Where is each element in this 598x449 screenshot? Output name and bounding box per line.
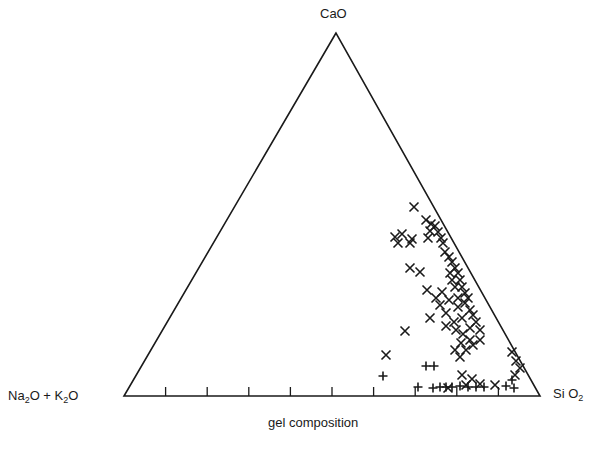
x-markers-series bbox=[382, 203, 525, 393]
x-marker bbox=[444, 384, 453, 393]
x-marker bbox=[438, 288, 447, 297]
vertex-label-na2o-k2o: Na2O + K2O bbox=[8, 388, 78, 403]
x-marker bbox=[445, 253, 454, 262]
vertex-label-cao: CaO bbox=[320, 6, 347, 21]
x-marker bbox=[466, 336, 475, 345]
x-marker bbox=[406, 239, 415, 248]
plus-marker bbox=[510, 384, 519, 393]
x-marker bbox=[458, 371, 467, 380]
x-marker bbox=[469, 341, 478, 350]
plus-marker bbox=[430, 362, 439, 371]
plus-marker bbox=[429, 384, 438, 393]
plus-marker bbox=[422, 362, 431, 371]
x-marker bbox=[451, 346, 460, 355]
plus-marker bbox=[502, 382, 511, 391]
x-marker bbox=[476, 336, 485, 345]
x-marker bbox=[382, 351, 391, 360]
x-marker bbox=[464, 294, 473, 303]
x-marker bbox=[416, 268, 425, 277]
plus-marker bbox=[379, 372, 388, 381]
x-marker bbox=[406, 264, 415, 273]
chart-caption: gel composition bbox=[268, 415, 358, 430]
x-marker bbox=[446, 269, 455, 278]
plus-marker bbox=[508, 376, 517, 385]
x-marker bbox=[426, 314, 435, 323]
ternary-plot bbox=[0, 0, 598, 449]
plus-marker bbox=[448, 383, 457, 392]
x-marker bbox=[423, 286, 432, 295]
x-marker bbox=[410, 203, 419, 212]
x-marker bbox=[462, 346, 471, 355]
x-marker bbox=[466, 306, 475, 315]
x-marker bbox=[454, 294, 463, 303]
x-marker bbox=[442, 309, 451, 318]
x-marker bbox=[456, 276, 465, 285]
x-marker bbox=[424, 234, 433, 243]
vertex-label-sio2: Si O2 bbox=[553, 386, 583, 401]
x-marker bbox=[462, 381, 471, 390]
x-marker bbox=[491, 381, 500, 390]
x-marker bbox=[401, 327, 410, 336]
